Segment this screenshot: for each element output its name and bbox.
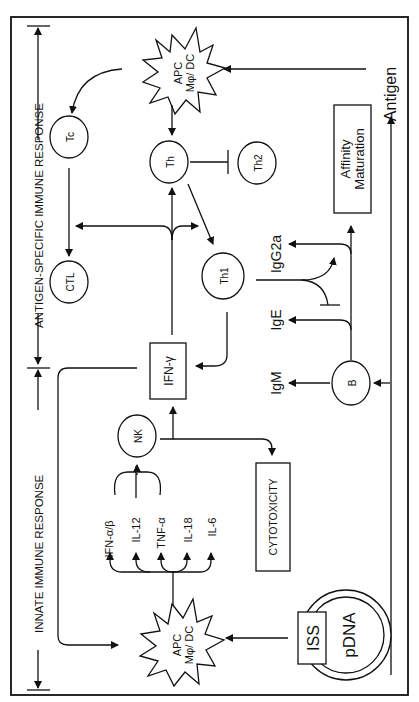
affinity-maturation-node: Affinity Maturation: [334, 105, 371, 213]
section-span-specific: ANTIGEN-SPECIFIC IMMUNE RESPONSE: [27, 26, 50, 364]
ifn-gamma-node: IFN-γ: [150, 343, 186, 399]
nk-node: NK: [118, 415, 156, 457]
affinity-label-1: Affinity: [338, 139, 353, 178]
ige-label: IgE: [268, 309, 284, 330]
cytokine-il12: IL-12: [130, 517, 142, 542]
diagram-canvas: ANTIGEN-SPECIFIC IMMUNE RESPONSE INNATE …: [0, 0, 419, 702]
tc-label: Tc: [65, 132, 76, 142]
ifn-gamma-label: IFN-γ: [162, 356, 176, 385]
edge-ifn-brace: [76, 226, 172, 240]
cytotoxicity-label: CYTOTOXICITY: [267, 478, 279, 555]
edge-b-ige: [289, 320, 351, 330]
edge-nk-cytotoxicity: [173, 439, 272, 455]
th-node: Th: [150, 141, 188, 183]
apc-specific-node: APC Mφ/ DC: [143, 28, 225, 114]
igg2a-label: IgG2a: [268, 235, 284, 273]
edge-nk-ifn: [160, 407, 173, 439]
cytokine-il6: IL-6: [206, 518, 218, 537]
edge-apc-tc: [72, 69, 122, 113]
antigen-label: Antigen: [382, 67, 399, 121]
b-node: B: [332, 361, 370, 405]
th1-label: Th1: [219, 267, 230, 285]
edge-apc-cytokines: [110, 553, 211, 612]
th1-node: Th1: [202, 253, 244, 299]
edge-ifn-apc-innate: [58, 368, 137, 645]
nk-label: NK: [133, 429, 144, 443]
th-label: Th: [165, 156, 176, 168]
ctl-label: CTL: [65, 272, 76, 291]
ctl-node: CTL: [50, 261, 88, 303]
apc-specific-label-2: Mφ/ DC: [184, 54, 196, 92]
iss-node: ISS: [298, 612, 326, 664]
apc-specific-label-1: APC: [172, 62, 184, 85]
iss-label: ISS: [305, 625, 322, 651]
section-label-innate: INNATE IMMUNE RESPONSE: [33, 474, 45, 633]
apc-innate-label-1: APC: [171, 634, 183, 657]
edge-th-th1: [188, 184, 213, 244]
cytokine-ifn-ab: IFN-α/β: [103, 520, 115, 557]
apc-innate-node: APC Mφ/ DC: [140, 599, 224, 686]
tc-node: Tc: [50, 116, 88, 158]
section-label-specific: ANTIGEN-SPECIFIC IMMUNE RESPONSE: [33, 103, 45, 328]
edge-th1-ifn: [196, 312, 227, 366]
b-label: B: [347, 379, 358, 386]
pdna-label: pDNA: [340, 612, 359, 658]
affinity-label-2: Maturation: [352, 128, 367, 189]
cytotoxicity-node: CYTOTOXICITY: [256, 463, 290, 571]
apc-innate-label-2: Mφ/ DC: [183, 626, 195, 664]
section-span-innate: INNATE IMMUNE RESPONSE: [27, 370, 50, 690]
cytokine-il18: IL-18: [182, 517, 194, 542]
cytokine-tnfa: TNF-α: [155, 517, 167, 549]
edge-b-igg2a: [289, 244, 351, 254]
igm-label: IgM: [268, 371, 284, 394]
th2-label: Th2: [253, 154, 264, 172]
th2-node: Th2: [238, 142, 276, 184]
